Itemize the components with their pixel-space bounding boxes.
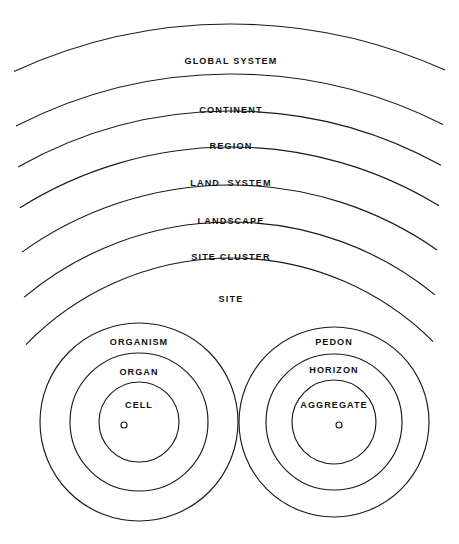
label-cell: CELL	[125, 400, 153, 410]
center-point-pedological	[336, 422, 342, 428]
center-point-biological	[121, 422, 127, 428]
arc-continent	[16, 74, 443, 126]
circle-group-biological	[40, 323, 238, 521]
label-landscape: LANDSCAPE	[198, 216, 265, 226]
label-land-system: LAND SYSTEM	[190, 178, 272, 188]
label-site-cluster: SITE CLUSTER	[191, 252, 270, 262]
circle-group-pedological	[239, 327, 429, 517]
label-layer: GLOBAL SYSTEMCONTINENTREGIONLAND SYSTEML…	[110, 56, 368, 410]
label-horizon: HORIZON	[309, 365, 358, 375]
circle-aggregate	[292, 380, 376, 464]
label-aggregate: AGGREGATE	[300, 400, 367, 410]
label-pedon: PEDON	[315, 337, 353, 347]
arc-region	[18, 111, 441, 167]
label-organ: ORGAN	[119, 367, 158, 377]
diagram-canvas: GLOBAL SYSTEMCONTINENTREGIONLAND SYSTEML…	[0, 0, 459, 544]
arc-land-system	[20, 147, 439, 208]
label-organism: ORGANISM	[110, 337, 168, 347]
label-region: REGION	[210, 141, 253, 151]
nested-circle-layer	[40, 323, 429, 521]
circle-pedon	[239, 327, 429, 517]
circle-cell	[99, 382, 179, 462]
label-site: SITE	[219, 294, 244, 304]
label-global-system: GLOBAL SYSTEM	[184, 56, 277, 66]
label-continent: CONTINENT	[199, 105, 262, 115]
scale-hierarchy-diagram: GLOBAL SYSTEMCONTINENTREGIONLAND SYSTEML…	[0, 0, 459, 544]
